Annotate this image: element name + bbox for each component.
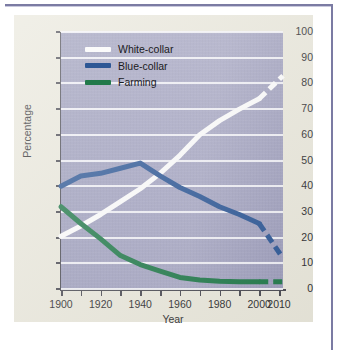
series-projection-blue-collar (259, 223, 283, 258)
x-tick-mark (61, 291, 63, 296)
x-tick-mark (279, 291, 281, 296)
legend-item: Farming (85, 77, 173, 88)
legend-swatch-icon (85, 47, 111, 52)
legend-label: Blue-collar (118, 61, 168, 72)
x-tick-mark (160, 291, 162, 296)
x-tick-label: 1900 (49, 298, 72, 310)
legend-swatch-icon (85, 63, 111, 68)
x-tick-mark (120, 291, 122, 296)
x-tick-label: 1920 (89, 298, 112, 310)
x-tick-mark (180, 291, 182, 296)
x-tick-mark (259, 291, 261, 296)
x-axis-title: Year (60, 313, 286, 325)
x-tick-mark (220, 291, 222, 296)
plot-area: White-collarBlue-collarFarming (61, 32, 283, 289)
x-tick-label: 2010 (267, 298, 290, 310)
chart-legend: White-collarBlue-collarFarming (85, 44, 173, 88)
x-tick-mark (140, 291, 142, 296)
chart-panel: Percentage 0102030405060708090100 White-… (14, 15, 313, 322)
figure-frame: Percentage 0102030405060708090100 White-… (0, 0, 337, 354)
x-tick-label: 1960 (168, 298, 191, 310)
frame-right-border (331, 4, 333, 350)
x-tick-mark (81, 291, 83, 296)
legend-item: Blue-collar (85, 61, 173, 72)
x-tick-mark (200, 291, 202, 296)
series-projection-white-collar (259, 76, 283, 99)
frame-top-highlight (5, 6, 332, 7)
legend-item: White-collar (85, 44, 173, 55)
legend-label: White-collar (118, 44, 173, 55)
x-tick-mark (101, 291, 103, 296)
x-tick-mark (239, 291, 241, 296)
legend-label: Farming (118, 77, 157, 88)
series-line-white-collar (61, 99, 259, 236)
y-axis-title: Percentage (21, 104, 33, 158)
x-tick-label: 1940 (129, 298, 152, 310)
x-tick-label: 1980 (208, 298, 231, 310)
legend-swatch-icon (85, 80, 111, 85)
